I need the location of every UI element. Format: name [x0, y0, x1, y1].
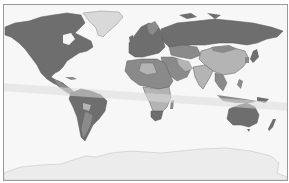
region-japan[interactable] — [250, 49, 259, 63]
region-central-asia[interactable] — [169, 45, 201, 59]
region-greenland[interactable] — [83, 11, 123, 37]
region-arctic-islands[interactable] — [179, 13, 221, 19]
region-philippines[interactable] — [237, 79, 243, 89]
region-north-america[interactable] — [5, 13, 93, 87]
region-europe[interactable] — [129, 23, 165, 57]
world-map[interactable] — [4, 5, 287, 180]
region-caribbean[interactable] — [65, 77, 77, 80]
region-russia[interactable] — [161, 19, 283, 47]
region-new-zealand[interactable] — [268, 119, 276, 131]
region-antarctica[interactable] — [4, 148, 287, 180]
region-india[interactable] — [193, 65, 213, 89]
region-southeast-asia[interactable] — [215, 73, 227, 91]
region-korea[interactable] — [245, 57, 249, 63]
map-frame — [3, 4, 288, 181]
region-africa-south[interactable] — [151, 111, 163, 121]
region-tasmania[interactable] — [247, 129, 250, 132]
